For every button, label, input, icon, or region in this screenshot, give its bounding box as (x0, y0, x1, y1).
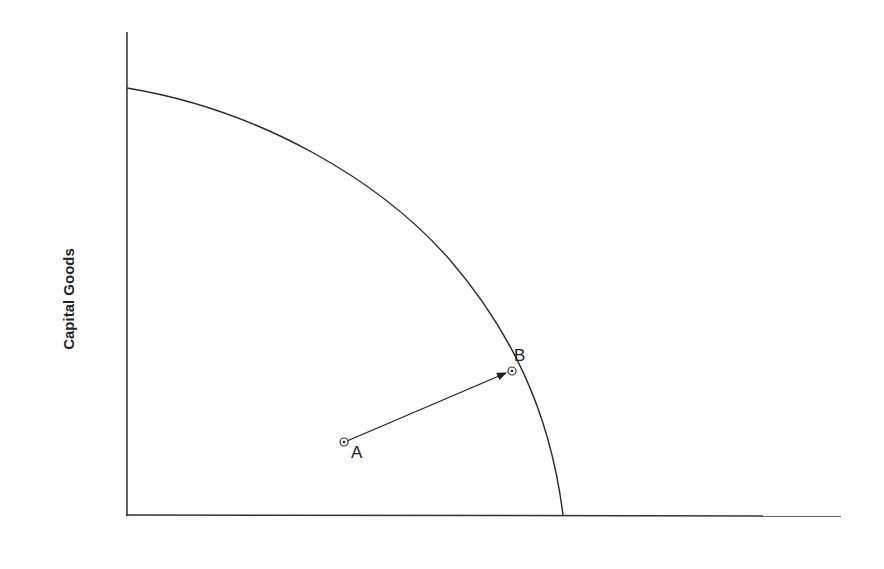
movement-arrow (347, 373, 506, 441)
x-axis (126, 515, 841, 516)
ppf-diagram (0, 0, 884, 569)
y-axis-label: Capital Goods (60, 248, 77, 350)
point-b-label: B (514, 346, 525, 366)
ppf-curve (127, 88, 563, 515)
point-a-marker (340, 438, 348, 446)
point-b-marker (508, 367, 516, 375)
point-a-label: A (351, 443, 362, 463)
